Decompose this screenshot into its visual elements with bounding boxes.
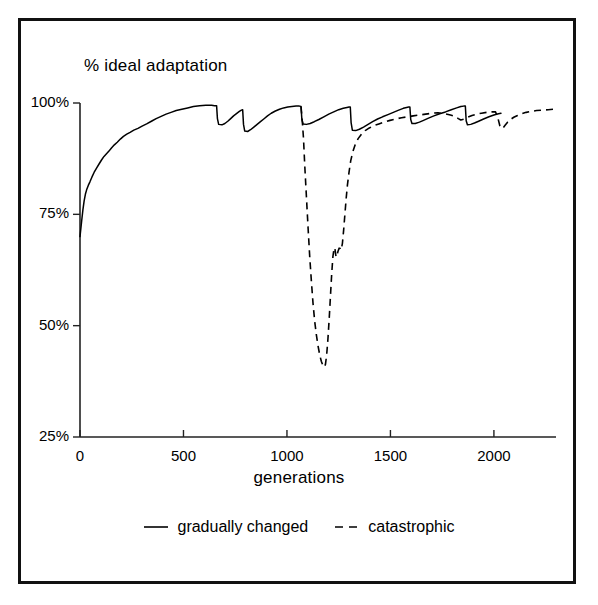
y-tick-label: 75% [15, 204, 69, 221]
legend-entry-gradually-changed: gradually changed [143, 518, 308, 536]
x-tick-label: 2000 [459, 447, 529, 464]
x-tick-label: 500 [148, 447, 218, 464]
x-tick-label: 1000 [252, 447, 322, 464]
x-axis-title: generations [0, 468, 598, 488]
solid-line-icon [143, 522, 169, 532]
x-axis-ticks [80, 430, 494, 437]
y-tick-label: 50% [15, 316, 69, 333]
legend-label-catastrophic: catastrophic [368, 518, 454, 536]
chart-legend: gradually changed catastrophic [0, 518, 598, 536]
dashed-line-icon [334, 522, 360, 532]
series-gradually-changed [80, 105, 501, 236]
plot-canvas [0, 0, 598, 605]
x-tick-label: 0 [45, 447, 115, 464]
legend-label-gradually-changed: gradually changed [177, 518, 308, 536]
y-tick-label: 100% [15, 93, 69, 110]
legend-entry-catastrophic: catastrophic [334, 518, 454, 536]
chart-figure: % ideal adaptation generations 25%50%75%… [0, 0, 598, 605]
y-axis-ticks [73, 103, 80, 437]
y-axis-title: % ideal adaptation [84, 56, 228, 76]
series-catastrophic [301, 107, 554, 368]
x-tick-label: 1500 [355, 447, 425, 464]
y-tick-label: 25% [15, 427, 69, 444]
